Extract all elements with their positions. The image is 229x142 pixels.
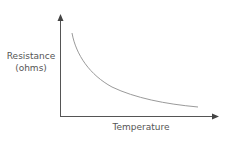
resistance-curve [72, 33, 198, 107]
y-axis-label: Resistance (ohms) [2, 50, 60, 74]
y-axis-label-line2: (ohms) [2, 62, 60, 74]
x-axis-arrow-icon [212, 114, 219, 120]
y-axis-arrow-icon [58, 14, 64, 21]
y-axis-label-line1: Resistance [2, 50, 60, 62]
x-axis-label: Temperature [110, 121, 172, 133]
